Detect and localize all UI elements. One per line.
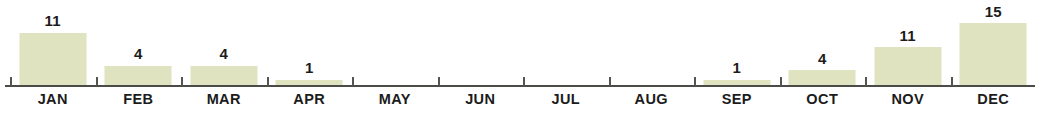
bar-group-aug[interactable]: AUG [609,0,695,127]
bar-group-sep[interactable]: 1 SEP [694,0,780,127]
x-tick-label-mar: MAR [207,91,241,107]
bar-apr[interactable] [276,80,343,85]
bar-value-label: 4 [134,45,143,62]
axis-tick [438,77,440,86]
x-tick-label-feb: FEB [123,91,153,107]
bar-value-label: 1 [305,59,314,76]
bar-chart: 11 JAN 4 FEB 4 MAR 1 [0,0,1041,127]
bar-value-label: 4 [818,50,827,67]
bar-value-label: 11 [900,27,916,44]
axis-tick [694,77,696,86]
x-tick-label-oct: OCT [806,91,838,107]
bar-nov[interactable] [874,47,941,85]
x-tick-label-dec: DEC [977,91,1009,107]
bar-group-nov[interactable]: 11 NOV [865,0,951,127]
axis-tick [865,77,867,86]
bar-value-label: 11 [45,12,61,29]
x-tick-label-sep: SEP [722,91,752,107]
axis-tick [96,77,98,86]
bar-sep[interactable] [703,80,770,85]
bar-group-oct[interactable]: 4 OCT [780,0,866,127]
bar-value-label: 1 [732,59,741,76]
bar-value-label: 4 [219,45,228,62]
axis-tick [181,77,183,86]
bar-group-jun[interactable]: JUN [438,0,524,127]
axis-tick [10,77,12,86]
bar-value-label: 15 [985,3,1002,20]
x-tick-label-apr: APR [293,91,325,107]
x-tick-label-jul: JUL [551,91,580,107]
x-tick-label-jun: JUN [465,91,495,107]
axis-tick [609,77,611,86]
bar-group-feb[interactable]: 4 FEB [96,0,182,127]
bar-slots: 11 JAN 4 FEB 4 MAR 1 [10,0,1036,127]
bar-feb[interactable] [105,66,172,85]
axis-tick [523,77,525,86]
bar-group-apr[interactable]: 1 APR [267,0,353,127]
x-tick-label-jan: JAN [38,91,68,107]
axis-tick [951,77,953,86]
bar-group-jan[interactable]: 11 JAN [10,0,96,127]
axis-tick [267,77,269,86]
bar-group-may[interactable]: MAY [352,0,438,127]
axis-tick [780,77,782,86]
axis-tick [352,77,354,86]
x-tick-label-nov: NOV [891,91,924,107]
bar-group-mar[interactable]: 4 MAR [181,0,267,127]
x-tick-label-aug: AUG [635,91,668,107]
bar-group-dec[interactable]: 15 DEC [951,0,1037,127]
bar-dec[interactable] [960,23,1027,85]
plot-area: 11 JAN 4 FEB 4 MAR 1 [10,0,1036,127]
bar-jan[interactable] [19,33,86,85]
bar-group-jul[interactable]: JUL [523,0,609,127]
x-tick-label-may: MAY [379,91,411,107]
bar-mar[interactable] [190,66,257,85]
bar-oct[interactable] [789,70,856,85]
